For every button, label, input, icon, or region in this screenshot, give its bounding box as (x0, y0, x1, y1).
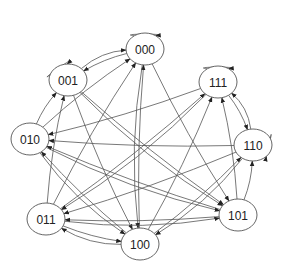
edge-110-to-011 (64, 152, 236, 214)
node-label: 111 (209, 76, 228, 90)
nodes-layer: 000001111010110011101100 (11, 33, 272, 260)
edge-001-to-101 (81, 92, 223, 205)
node-000: 000 (126, 33, 164, 65)
node-label: 101 (228, 209, 248, 223)
node-011: 011 (27, 203, 65, 235)
node-label: 000 (135, 43, 155, 57)
node-001: 001 (49, 64, 87, 96)
edge-101-to-011 (65, 217, 219, 221)
node-111: 111 (199, 66, 237, 98)
node-101: 101 (219, 199, 257, 231)
edge-110-to-111 (232, 93, 251, 129)
edge-011-to-101 (65, 218, 220, 225)
edge-111-to-110 (229, 95, 248, 129)
edge-100-to-111 (148, 97, 212, 229)
edge-010-to-001 (36, 93, 56, 124)
node-010: 010 (11, 123, 49, 155)
node-label: 100 (130, 238, 150, 252)
node-110: 110 (234, 129, 272, 161)
edge-100-to-011 (62, 228, 122, 244)
state-graph: 000001111010110011101100 (0, 0, 306, 270)
edge-101-to-110 (244, 161, 252, 200)
edge-110-to-010 (49, 141, 234, 147)
node-100: 100 (121, 228, 159, 260)
node-label: 010 (20, 133, 40, 147)
node-label: 110 (243, 139, 262, 153)
node-label: 001 (58, 74, 78, 88)
node-label: 011 (36, 213, 55, 227)
